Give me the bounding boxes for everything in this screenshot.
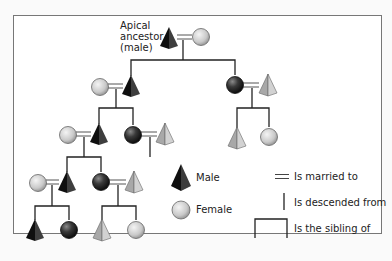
female-icon xyxy=(128,222,145,239)
sibling-bracket xyxy=(131,60,235,76)
apical-label-line1: Apical xyxy=(120,20,163,31)
female-icon xyxy=(61,222,78,239)
female-icon xyxy=(261,129,278,146)
legend-female-label: Female xyxy=(196,204,232,215)
male-icon xyxy=(26,219,44,241)
legend-male-label: Male xyxy=(196,172,220,183)
kinship-diagram xyxy=(0,0,392,261)
marriage-symbol xyxy=(108,84,123,88)
male-icon xyxy=(156,123,174,145)
marriage-symbol xyxy=(141,132,157,136)
marriage-symbol xyxy=(46,180,59,184)
male-icon xyxy=(58,171,76,193)
sibling-bracket xyxy=(102,206,136,220)
marriage-symbol xyxy=(177,35,192,39)
legend-descended-label: Is descended from xyxy=(294,197,386,208)
female-icon xyxy=(60,127,77,144)
marriage-symbol xyxy=(76,132,91,136)
marriage-symbol xyxy=(109,180,126,184)
legend-married-label: Is married to xyxy=(294,171,358,182)
sibling-bracket xyxy=(67,157,101,172)
male-icon xyxy=(228,127,246,149)
female-icon xyxy=(93,174,110,191)
apical-label-line2: ancestor xyxy=(120,31,163,42)
apical-label-line3: (male) xyxy=(120,42,163,53)
marriage-symbol xyxy=(243,83,259,87)
female-icon xyxy=(30,175,47,192)
female-icon xyxy=(193,29,210,46)
apical-ancestor-label: Apical ancestor (male) xyxy=(120,20,163,53)
female-icon xyxy=(227,77,244,94)
sibling-bracket xyxy=(237,108,269,128)
female-icon xyxy=(125,127,142,144)
male-icon xyxy=(93,219,111,241)
legend-sibling-label: Is the sibling of xyxy=(294,223,370,234)
male-icon xyxy=(259,74,277,96)
legend-married-icon xyxy=(275,175,289,179)
sibling-bracket xyxy=(99,108,133,125)
male-icon xyxy=(122,75,140,97)
legend-male-icon xyxy=(171,164,191,191)
male-icon xyxy=(125,171,143,193)
legend-sibling-icon xyxy=(255,219,287,238)
female-icon xyxy=(92,79,109,96)
male-icon xyxy=(90,123,108,145)
legend-female-icon xyxy=(172,201,190,219)
sibling-bracket xyxy=(35,206,69,220)
